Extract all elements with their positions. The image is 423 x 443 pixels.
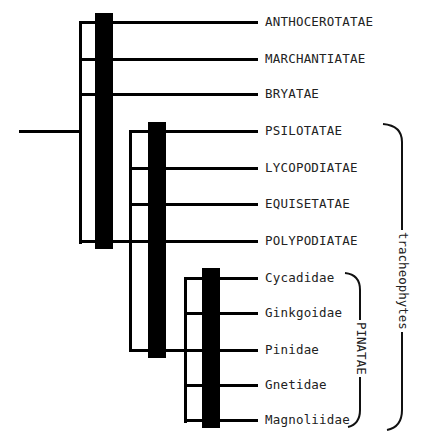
tracheophytes-label: tracheophytes: [396, 230, 411, 332]
pinatae-label: PINATAE: [354, 320, 369, 377]
